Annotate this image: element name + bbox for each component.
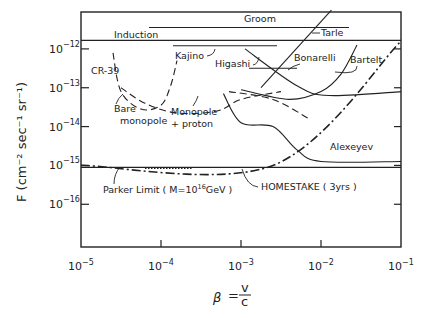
x-axis-title: β = v c <box>212 280 251 309</box>
curve-cr-39-bare-monopole <box>113 53 177 110</box>
label-plus-proton: + proton <box>171 118 213 129</box>
x-axis: 10−510−410−310−210−1 <box>68 240 414 273</box>
label-homestake: HOMESTAKE ( 3yrs ) <box>261 181 357 192</box>
x-axis-num: v <box>241 280 249 295</box>
curve-higashi-extension <box>229 92 309 119</box>
parker-exp: 16 <box>198 183 206 191</box>
x-axis-beta: β <box>212 290 221 305</box>
label-bare-monopole: monopole <box>120 115 167 126</box>
y-tick-label: 10−12 <box>49 40 80 56</box>
x-tick-label: 10−1 <box>388 258 414 273</box>
y-axis-title: F (cm⁻² sec⁻¹ sr⁻¹) <box>14 82 29 202</box>
curve-alexeyev <box>223 94 401 163</box>
label-cr39: CR-39 <box>91 65 119 76</box>
y-tick-label: 10−16 <box>49 195 80 211</box>
monopole-pointer <box>193 96 198 106</box>
label-higashi: Higashi <box>215 58 250 69</box>
label-bare: Bare <box>114 103 136 114</box>
label-alexeyev: Alexeyev <box>330 141 373 152</box>
x-axis-den: c <box>241 294 248 309</box>
homestake-pointer <box>242 169 258 187</box>
bonarelli-pointer <box>288 64 300 70</box>
label-monopole: Monopole <box>171 106 217 117</box>
x-tick-label: 10−4 <box>148 258 174 273</box>
x-tick-label: 10−5 <box>68 258 94 273</box>
chart: 10−510−410−310−210−1 10−1210−1310−1410−1… <box>0 0 427 318</box>
label-bartelt: Bartelt <box>350 54 382 65</box>
label-parker: Parker Limit ( M=1016GeV ) <box>103 183 232 195</box>
parker-pointer <box>114 167 120 184</box>
plot-frame <box>81 12 401 247</box>
kajino-pointer <box>207 49 215 56</box>
parker-text: Parker Limit ( M=10 <box>103 184 198 195</box>
parker-unit: GeV ) <box>206 184 232 195</box>
y-tick-label: 10−13 <box>49 79 80 95</box>
x-tick-label: 10−3 <box>228 258 254 273</box>
y-tick-label: 10−14 <box>49 118 80 134</box>
label-groom: Groom <box>244 13 276 24</box>
label-tarle: Tarle <box>320 27 344 38</box>
label-induction: Induction <box>114 29 158 40</box>
label-kajino: Kajino <box>175 50 204 61</box>
x-axis-eq: = <box>228 288 239 303</box>
label-bonarelli: Bonarelli <box>294 52 336 63</box>
y-axis-title-text: F (cm⁻² sec⁻¹ sr⁻¹) <box>14 82 29 202</box>
y-tick-label: 10−15 <box>49 156 80 172</box>
x-tick-label: 10−2 <box>308 258 334 273</box>
